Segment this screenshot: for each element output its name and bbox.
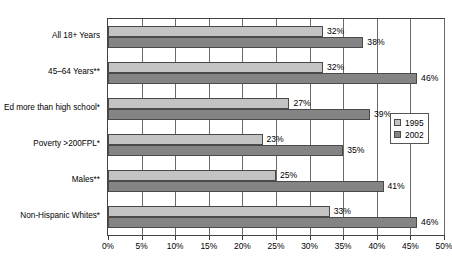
bar-value-label: 32%: [327, 62, 344, 73]
bar-value-label: 35%: [347, 145, 364, 156]
category-label: 45–64 Years**: [0, 67, 100, 77]
bar-value-label: 32%: [327, 26, 344, 37]
bar-2002: [108, 217, 417, 228]
gridline: [444, 19, 445, 235]
x-tick-label: 20%: [234, 241, 251, 252]
category-label: All 18+ Years: [0, 31, 100, 41]
bar-2002: [108, 145, 343, 156]
bar-1995: [108, 98, 289, 109]
bar-value-label: 46%: [421, 217, 438, 228]
category-axis: All 18+ Years45–64 Years**Ed more than h…: [0, 18, 104, 236]
x-tick-mark: [175, 236, 176, 240]
x-tick-mark: [444, 236, 445, 240]
category-label: Non-Hispanic Whites*: [0, 211, 100, 221]
legend-label: 2002: [405, 130, 424, 140]
x-tick-label: 10%: [167, 241, 184, 252]
bar-value-label: 23%: [267, 134, 284, 145]
bar-1995: [108, 206, 330, 217]
bar-value-label: 33%: [334, 206, 351, 217]
bar-value-label: 41%: [388, 181, 405, 192]
x-tick-mark: [142, 236, 143, 240]
x-tick-mark: [343, 236, 344, 240]
x-tick-mark: [276, 236, 277, 240]
bar-1995: [108, 26, 323, 37]
bar-1995: [108, 170, 276, 181]
x-tick-label: 0%: [102, 241, 114, 252]
x-tick-mark: [242, 236, 243, 240]
legend-swatch-icon: [394, 131, 401, 138]
x-tick-label: 50%: [436, 241, 452, 252]
x-tick-label: 25%: [268, 241, 285, 252]
x-tick-label: 45%: [402, 241, 419, 252]
x-tick-mark: [310, 236, 311, 240]
category-label: Males**: [0, 175, 100, 185]
bar-2002: [108, 181, 384, 192]
bar-value-label: 25%: [280, 170, 297, 181]
x-tick-mark: [108, 236, 109, 240]
x-tick-mark: [209, 236, 210, 240]
x-tick-label: 40%: [368, 241, 385, 252]
legend-item: 2002: [394, 129, 424, 140]
category-label: Poverty >200FPL*: [0, 139, 100, 149]
x-tick-label: 5%: [136, 241, 148, 252]
bar-1995: [108, 62, 323, 73]
x-axis: 0%5%10%15%20%25%30%35%40%45%50%: [107, 236, 445, 260]
legend-label: 1995: [405, 118, 424, 128]
x-tick-mark: [410, 236, 411, 240]
bar-2002: [108, 37, 363, 48]
x-tick-label: 30%: [301, 241, 318, 252]
x-tick-mark: [377, 236, 378, 240]
bar-2002: [108, 109, 370, 120]
bar-1995: [108, 134, 263, 145]
x-tick-label: 35%: [335, 241, 352, 252]
bar-value-label: 27%: [293, 98, 310, 109]
chart-legend: 19952002: [390, 113, 429, 144]
bar-value-label: 38%: [367, 37, 384, 48]
bar-value-label: 39%: [374, 109, 391, 120]
legend-swatch-icon: [394, 119, 401, 126]
legend-item: 1995: [394, 117, 424, 128]
category-label: Ed more than high school*: [0, 103, 100, 113]
bar-value-label: 46%: [421, 73, 438, 84]
bar-2002: [108, 73, 417, 84]
x-tick-label: 15%: [200, 241, 217, 252]
